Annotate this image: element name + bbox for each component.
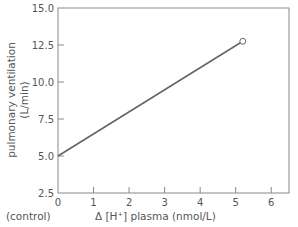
y-tick-label: 12.5 (32, 40, 54, 51)
y-tick-label: 10.0 (32, 77, 54, 88)
x-axis-control-label: (control) (6, 210, 51, 222)
y-axis-ticks: 2.55.07.510.012.515.0 (32, 3, 64, 199)
endpoint-open-circle-marker (240, 38, 246, 44)
data-line (58, 41, 243, 156)
x-tick-label: 4 (197, 197, 203, 208)
plot-frame (58, 8, 289, 193)
x-tick-label: 0 (55, 197, 61, 208)
x-tick-label: 6 (268, 197, 274, 208)
x-axis-label: Δ [H⁺] plasma (nmol/L) (95, 210, 216, 222)
line-chart: 2.55.07.510.012.515.0 0123456 pulmonary … (0, 0, 298, 227)
x-tick-label: 1 (90, 197, 96, 208)
y-tick-label: 7.5 (38, 114, 54, 125)
y-axis-units: (L/min) (18, 81, 30, 118)
y-tick-label: 5.0 (38, 151, 54, 162)
x-tick-label: 5 (233, 197, 239, 208)
x-axis-ticks: 0123456 (55, 187, 275, 208)
x-tick-label: 2 (126, 197, 132, 208)
x-tick-label: 3 (161, 197, 167, 208)
y-axis-label: pulmonary ventilation (5, 42, 17, 158)
y-tick-label: 2.5 (38, 188, 54, 199)
y-tick-label: 15.0 (32, 3, 54, 14)
